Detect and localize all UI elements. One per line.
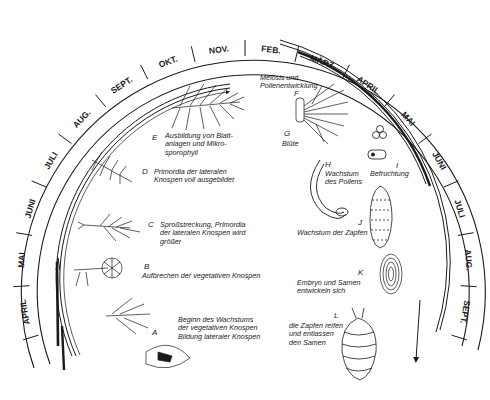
illustration-I-fertilization bbox=[368, 126, 387, 160]
illustration-C-shoot bbox=[78, 214, 140, 241]
stage-letter-L: L bbox=[334, 311, 338, 320]
illustration-K-seed bbox=[380, 254, 402, 294]
stage-caption-L: die Zapfen reifen und entlassen den Same… bbox=[289, 322, 343, 347]
stage-letter-H: H bbox=[325, 160, 331, 169]
stage-letter-G: G bbox=[284, 129, 290, 138]
month-dividers bbox=[13, 40, 476, 340]
stage-letter-D: D bbox=[142, 167, 148, 176]
life-cycle-diagram: APRILMAIJUNIJULIAUG.SEPT.OKT.NOV.FEB.MÄR… bbox=[0, 0, 490, 400]
stage-letter-B: B bbox=[144, 262, 149, 271]
month-label: OKT. bbox=[157, 54, 179, 70]
stage-letter-K: K bbox=[358, 268, 363, 277]
month-label: JUNI bbox=[23, 198, 38, 219]
month-label: AUG. bbox=[71, 108, 93, 130]
month-label: FEB. bbox=[261, 43, 281, 55]
illustration-B-shoot bbox=[74, 258, 122, 286]
stage-letter-F: F bbox=[294, 89, 299, 98]
stage-caption-D: Primordia der lateralen Knospen voll aus… bbox=[154, 168, 234, 185]
stage-caption-E: Ausbildung von Blatt- anlagen und Mikro-… bbox=[165, 132, 233, 157]
stage-letter-J: J bbox=[358, 218, 362, 227]
stage-letter-E: E bbox=[152, 133, 157, 142]
stage-caption-I: Befruchtung bbox=[370, 170, 409, 178]
month-label: MAI bbox=[16, 252, 27, 268]
stage-caption-A: Beginn des Wachstums der vegetativen Kno… bbox=[178, 316, 260, 341]
stage-caption-F: Meiosis und Pollenentwicklung bbox=[260, 74, 318, 91]
stage-caption-J: Wachstum der Zapfen bbox=[297, 229, 368, 237]
stage-letter-C: C bbox=[148, 220, 154, 229]
month-label: SEPT. bbox=[458, 300, 472, 325]
illustration-J-cone bbox=[370, 186, 392, 248]
month-label: APRIL bbox=[17, 299, 31, 326]
stage-letter-A: A bbox=[152, 328, 157, 337]
illustration-L-mature-cone bbox=[342, 308, 376, 380]
illustration-E-shoot bbox=[172, 84, 244, 130]
month-label: NOV. bbox=[208, 43, 229, 55]
month-label: JUNI bbox=[430, 150, 448, 172]
month-label: JULI bbox=[452, 198, 467, 218]
month-label: SEPT. bbox=[109, 74, 134, 95]
stage-caption-K: Embryo und Samen entwickeln sich bbox=[297, 279, 361, 296]
stage-caption-G: Blüte bbox=[282, 140, 298, 148]
month-label: AUG. bbox=[463, 249, 474, 271]
stage-caption-C: Sproßstreckung, Primordia der lateralen … bbox=[160, 221, 246, 246]
stage-caption-H: Wachstum des Pollens bbox=[325, 170, 362, 187]
stage-caption-B: Aufbrechen der vegetativen Knospen bbox=[142, 272, 260, 280]
